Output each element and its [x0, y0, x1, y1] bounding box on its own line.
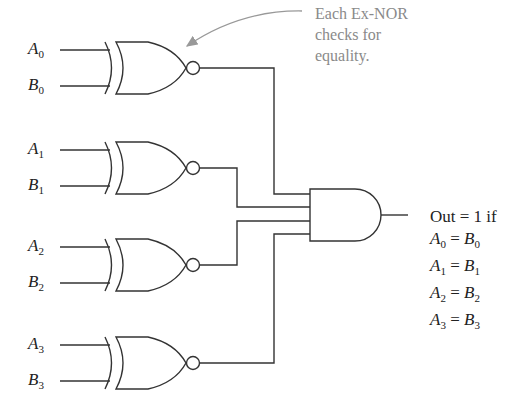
annotation-arrow	[187, 11, 302, 46]
output-label: Out = 1 if	[430, 206, 497, 228]
condition-0: A0 = B0	[430, 228, 497, 255]
xnor-gate-1	[60, 142, 310, 207]
label-a1: A1	[28, 140, 44, 160]
condition-2: A2 = B2	[430, 282, 497, 309]
annotation-line-2: checks for	[315, 24, 408, 45]
label-b0: B0	[28, 76, 44, 96]
annotation-line-1: Each Ex-NOR	[315, 3, 408, 24]
annotation-text: Each Ex-NOR checks for equality.	[315, 3, 408, 66]
and-gate	[310, 189, 408, 241]
label-b2: B2	[28, 273, 44, 293]
xnor-gate-2	[60, 221, 310, 291]
condition-3: A3 = B3	[430, 309, 497, 336]
comparator-diagram: A0 B0 A1 B1 A2 B2 A3 B3 Each Ex-NOR chec…	[0, 0, 519, 410]
xnor-gate-3	[60, 234, 310, 389]
circuit-wires	[0, 0, 519, 410]
annotation-line-3: equality.	[315, 45, 408, 66]
xnor-gate-0	[60, 42, 310, 194]
label-a3: A3	[28, 335, 44, 355]
label-b3: B3	[28, 371, 44, 391]
output-description: Out = 1 if A0 = B0 A1 = B1 A2 = B2 A3 = …	[430, 206, 497, 336]
label-a0: A0	[28, 40, 44, 60]
label-a2: A2	[28, 237, 44, 257]
condition-1: A1 = B1	[430, 255, 497, 282]
label-b1: B1	[28, 176, 44, 196]
